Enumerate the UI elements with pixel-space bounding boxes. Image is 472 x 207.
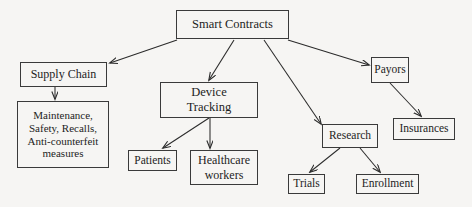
smart-contracts-diagram: Smart Contracts Supply Chain Maintenance… (0, 0, 472, 207)
edge-smart-to-supply (110, 40, 177, 63)
node-healthcare-workers[interactable]: Healthcare workers (190, 150, 258, 185)
node-research[interactable]: Research (322, 124, 378, 148)
node-trials[interactable]: Trials (288, 174, 325, 194)
node-smart-contracts[interactable]: Smart Contracts (176, 10, 289, 39)
edge-research-to-trials (310, 148, 340, 172)
node-label: Payors (372, 63, 408, 77)
edge-device-to-patients (163, 118, 209, 148)
node-label: Maintenance, Safety, Recalls, Anti-count… (18, 109, 108, 161)
node-label: Trials (289, 177, 324, 191)
edge-payors-to-insurances (390, 83, 421, 116)
node-payors[interactable]: Payors (371, 57, 409, 83)
node-enrollment[interactable]: Enrollment (356, 174, 419, 194)
node-label: Insurances (394, 122, 454, 136)
node-device-tracking[interactable]: Device Tracking (160, 82, 258, 118)
edge-smart-to-device (209, 40, 234, 80)
node-label: Healthcare workers (191, 153, 257, 181)
edge-smart-to-payors (288, 40, 369, 65)
node-insurances[interactable]: Insurances (393, 118, 455, 140)
edge-research-to-enroll (360, 148, 380, 172)
node-label: Enrollment (357, 177, 418, 191)
edge-smart-to-research (264, 40, 321, 124)
node-label: Supply Chain (21, 67, 106, 81)
node-label: Smart Contracts (177, 17, 288, 32)
node-maintenance-safety-recalls[interactable]: Maintenance, Safety, Recalls, Anti-count… (17, 101, 109, 168)
node-label: Patients (129, 154, 176, 168)
node-label: Device Tracking (161, 85, 257, 115)
node-label: Research (323, 129, 377, 143)
node-patients[interactable]: Patients (128, 150, 177, 171)
node-supply-chain[interactable]: Supply Chain (20, 62, 107, 87)
